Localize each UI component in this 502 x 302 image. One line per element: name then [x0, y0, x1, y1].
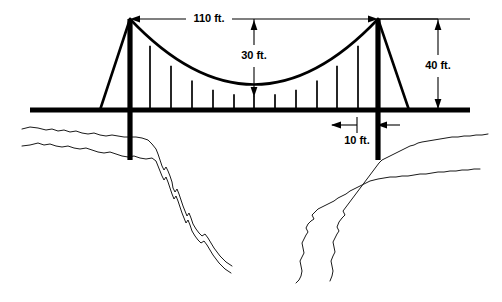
- left-anchor-cable: [100, 19, 130, 110]
- dimension-span-110ft: 110 ft.: [130, 12, 438, 24]
- arrowhead-left: [331, 122, 341, 129]
- dimension-label-offset: 10 ft.: [344, 134, 370, 146]
- right-canyon-wall: [296, 134, 488, 283]
- dimension-offset-10ft: 10 ft.: [331, 117, 400, 146]
- dimension-label-sag: 30 ft.: [241, 49, 267, 61]
- dimension-label-tower-height: 40 ft.: [425, 59, 451, 71]
- dimension-tower-height-40ft: 40 ft.: [378, 19, 470, 110]
- arrowhead-up: [251, 20, 258, 30]
- diagram-canvas: 110 ft. 30 ft. 40 ft.: [0, 0, 502, 302]
- arrowhead-down: [251, 87, 258, 97]
- arrowhead-up: [435, 20, 442, 30]
- dimension-label-span: 110 ft.: [193, 12, 224, 24]
- right-anchor-cable: [378, 19, 409, 110]
- left-canyon-wall: [22, 127, 232, 273]
- bridge-diagram: 110 ft. 30 ft. 40 ft.: [0, 0, 502, 302]
